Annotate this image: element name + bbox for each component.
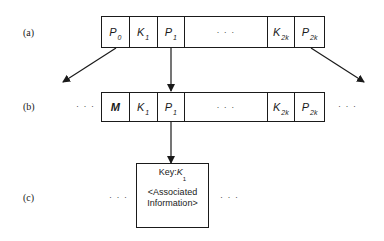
cell-p2k: P2k	[295, 17, 324, 47]
cell-p1: P1	[158, 93, 186, 121]
cell-p0: P0	[102, 17, 130, 47]
ellipsis-right-c: · · ·	[220, 192, 239, 202]
cell-ellipsis: · · ·	[185, 17, 267, 47]
record-c: Key:K1 <Associated Information>	[136, 163, 209, 228]
cell-p2k: P2k	[295, 93, 324, 121]
cell-k1: K1	[130, 17, 158, 47]
ellipsis-right-b: · · ·	[338, 101, 357, 111]
node-b: M K1 P1 · · · K2k P2k	[101, 92, 325, 122]
cell-m: M	[102, 93, 130, 121]
record-info-line2: Information>	[137, 198, 208, 209]
node-a: P0 K1 P1 · · · K2k P2k	[101, 16, 325, 48]
arrow-p0-left	[63, 48, 116, 82]
cell-ellipsis: · · ·	[185, 93, 267, 121]
record-info-line1: <Associated	[137, 187, 208, 198]
arrow-p2k-right	[311, 48, 364, 82]
ellipsis-left-b: · · ·	[76, 101, 95, 111]
cell-k2k: K2k	[268, 17, 296, 47]
record-key: Key:K1	[137, 167, 208, 182]
cell-k1: K1	[130, 93, 158, 121]
cell-k2k: K2k	[268, 93, 296, 121]
ellipsis-left-c: · · ·	[109, 192, 128, 202]
cell-p1: P1	[158, 17, 186, 47]
